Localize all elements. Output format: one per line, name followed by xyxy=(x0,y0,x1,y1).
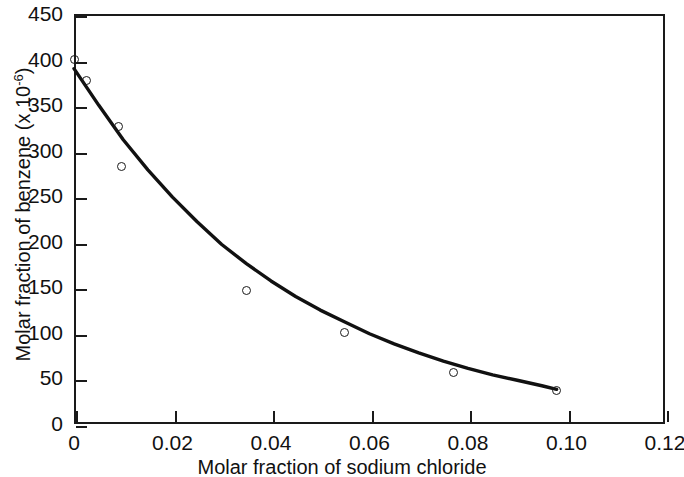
x-axis-title: Molar fraction of sodium chloride xyxy=(0,457,684,477)
x-tick-label: 0.10 xyxy=(546,432,587,453)
y-axis-title: Molar fraction of benzene (x 10-6) xyxy=(12,5,33,425)
x-tick-label: 0 xyxy=(68,432,80,453)
y-axis-title-exponent: -6 xyxy=(11,74,26,86)
x-tick-label: 0.06 xyxy=(349,432,390,453)
x-tick-label: 0.04 xyxy=(251,432,292,453)
chart-figure: 050100150200250300350400450 00.020.040.0… xyxy=(0,0,684,477)
x-tick-label: 0.02 xyxy=(152,432,193,453)
x-tick-label: 0.12 xyxy=(645,432,684,453)
y-axis-title-suffix: ) xyxy=(12,68,34,75)
y-axis-title-prefix: Molar fraction of benzene (x 10 xyxy=(12,86,34,362)
x-axis-tick-labels: 00.020.040.060.080.100.12 xyxy=(0,0,684,477)
x-tick-label: 0.08 xyxy=(448,432,489,453)
